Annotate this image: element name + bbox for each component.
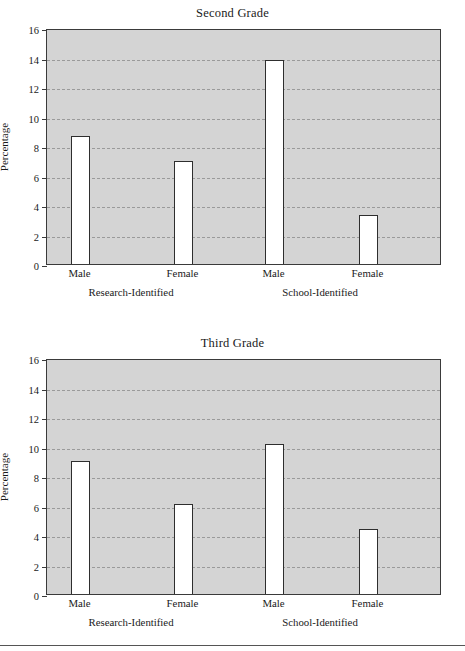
y-axis-tick [42,237,47,238]
gridline [47,419,440,420]
y-tick-label: 16 [29,25,40,36]
y-tick-label: 6 [34,172,39,183]
y-axis-tick [42,30,47,31]
bar [174,161,193,264]
y-axis-tick [42,148,47,149]
x-tick-label: Female [352,597,384,609]
plot-area: 0246810121416 [46,29,441,265]
y-tick-label: 8 [34,473,39,484]
bar [359,215,378,264]
y-axis-tick [42,508,47,509]
y-tick-label: 2 [34,231,39,242]
y-axis-tick [42,60,47,61]
y-axis-tick [42,119,47,120]
x-tick-label: Female [352,267,384,279]
y-axis-tick [42,478,47,479]
gridline [47,449,440,450]
y-tick-label: 8 [34,143,39,154]
group-label-research-identified: Research-Identified [88,616,173,628]
bar [71,136,90,264]
y-axis-label: Percentage [0,123,10,171]
gridline [47,60,440,61]
y-tick-label: 14 [29,54,40,65]
x-tick-label: Male [262,267,284,279]
chart-title: Third Grade [0,336,465,351]
chart-title: Second Grade [0,6,465,21]
y-axis-tick [42,360,47,361]
gridline [47,207,440,208]
y-axis-tick [42,419,47,420]
y-tick-label: 10 [29,113,40,124]
y-axis-tick [42,537,47,538]
y-axis-tick [42,449,47,450]
y-tick-label: 4 [34,202,39,213]
y-axis-tick [42,390,47,391]
gridline [47,390,440,391]
group-label-school-identified: School-Identified [282,286,358,298]
bar [174,504,193,594]
bar [265,444,284,594]
gridline [47,537,440,538]
chart-third-grade: Third Grade 0246810121416 Percentage Mal… [0,330,465,640]
footer-rule [0,645,465,646]
y-tick-label: 6 [34,502,39,513]
y-axis-tick [42,178,47,179]
gridline [47,478,440,479]
group-label-school-identified: School-Identified [282,616,358,628]
y-tick-label: 2 [34,561,39,572]
y-tick-label: 12 [29,84,40,95]
x-tick-label: Male [68,597,90,609]
y-tick-label: 14 [29,384,40,395]
y-tick-label: 0 [34,591,39,602]
bar [265,60,284,264]
y-axis-tick [42,89,47,90]
y-tick-label: 10 [29,443,40,454]
gridline [47,148,440,149]
gridline [47,567,440,568]
y-axis-tick [42,596,47,597]
x-tick-label: Male [262,597,284,609]
gridline [47,89,440,90]
gridline [47,178,440,179]
x-tick-label: Female [167,267,199,279]
x-tick-label: Female [167,597,199,609]
y-tick-label: 16 [29,355,40,366]
bar [359,529,378,594]
x-tick-label: Male [68,267,90,279]
plot-area: 0246810121416 [46,359,441,595]
chart-second-grade: Second Grade 0246810121416 Percentage Ma… [0,0,465,310]
group-label-research-identified: Research-Identified [88,286,173,298]
y-tick-label: 0 [34,261,39,272]
y-tick-label: 4 [34,532,39,543]
y-axis-label: Percentage [0,453,10,501]
gridline [47,237,440,238]
bar [71,461,90,594]
gridline [47,119,440,120]
gridline [47,508,440,509]
y-axis-tick [42,207,47,208]
y-axis-tick [42,266,47,267]
y-axis-tick [42,567,47,568]
y-tick-label: 12 [29,414,40,425]
